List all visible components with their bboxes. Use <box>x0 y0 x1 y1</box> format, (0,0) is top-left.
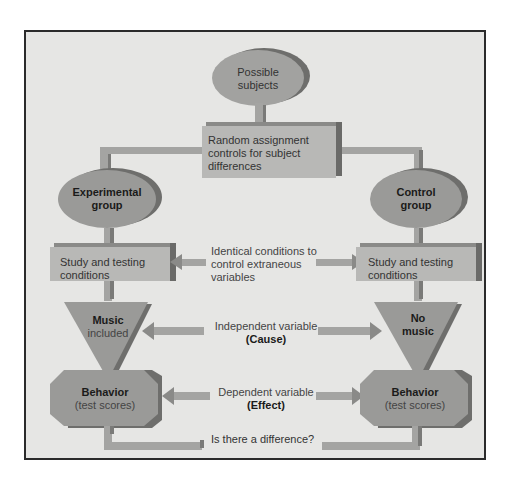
possible-subjects-line1: Possible <box>220 66 296 79</box>
arrow-independent-to-left <box>150 327 204 335</box>
behavior-right-bold: Behavior <box>362 386 468 399</box>
behavior-left-normal: (test scores) <box>52 399 158 412</box>
connector-study-right-shadow <box>419 281 423 299</box>
arrow-dependent-to-left <box>170 392 210 400</box>
independent-variable-annotation: Independent variable (Cause) <box>208 320 324 346</box>
random-assignment-label: Random assignment controls for subject d… <box>208 134 334 173</box>
control-group-label: Control group <box>372 186 460 212</box>
dependent-line1: Dependent variable <box>208 386 324 399</box>
arrow-independent-to-right <box>318 327 374 335</box>
study-right-line1: Study and testing <box>368 256 478 269</box>
branch-right-vertical-shadow <box>419 150 423 169</box>
study-left-line1: Study and testing <box>60 256 170 269</box>
music-included-bold: Music <box>68 314 148 327</box>
control-group-line2: group <box>372 199 460 212</box>
study-right-line2: conditions <box>368 269 478 282</box>
arrow-head-identical-left <box>170 254 182 270</box>
dependent-line2: (Effect) <box>208 399 324 412</box>
music-included-normal: included <box>68 327 148 340</box>
control-group-line1: Control <box>372 186 460 199</box>
connector-study-left-shadow <box>110 281 114 299</box>
experimental-group-line2: group <box>60 199 154 212</box>
compare-right-vertical-shadow <box>418 426 422 446</box>
music-included-label: Music included <box>68 314 148 340</box>
difference-question: Is there a difference? <box>211 433 321 446</box>
no-music-label: No music <box>378 312 458 338</box>
experimental-group-label: Experimental group <box>60 186 154 212</box>
experimental-group-line1: Experimental <box>60 186 154 199</box>
behavior-left-label: Behavior (test scores) <box>52 386 158 412</box>
compare-right-horizontal <box>322 442 418 450</box>
study-left-line2: conditions <box>60 269 170 282</box>
arrow-dependent-to-right <box>316 392 356 400</box>
identical-line3: variables <box>211 271 341 284</box>
independent-line1: Independent variable <box>208 320 324 333</box>
compare-left-horizontal <box>104 442 202 450</box>
no-music-line2: music <box>378 325 458 338</box>
behavior-left-bold: Behavior <box>52 386 158 399</box>
random-assignment-line1: Random assignment <box>208 134 334 147</box>
random-assignment-line3: differences <box>208 160 334 173</box>
arrow-head-independent-left <box>142 322 154 340</box>
random-assignment-line2: controls for subject <box>208 147 334 160</box>
dependent-variable-annotation: Dependent variable (Effect) <box>208 386 324 412</box>
branch-left-vertical <box>100 147 108 169</box>
possible-subjects-label: Possible subjects <box>220 66 296 92</box>
independent-line2: (Cause) <box>208 333 324 346</box>
study-right-label: Study and testing conditions <box>368 256 478 282</box>
connector-exp-to-study-shadow <box>110 228 114 244</box>
branch-left-horizontal <box>100 147 202 154</box>
possible-subjects-line2: subjects <box>220 79 296 92</box>
compare-left-vertical-shadow <box>110 426 114 434</box>
behavior-right-label: Behavior (test scores) <box>362 386 468 412</box>
branch-left-vertical-shadow <box>108 154 111 169</box>
study-left-label: Study and testing conditions <box>60 256 170 282</box>
arrow-head-dependent-left <box>162 387 174 405</box>
arrow-identical-to-left <box>178 259 206 266</box>
branch-right-horizontal <box>342 147 422 154</box>
connector-ctrl-to-study-shadow <box>419 228 423 244</box>
compare-left-end <box>200 440 204 448</box>
behavior-right-normal: (test scores) <box>362 399 468 412</box>
arrow-identical-to-right <box>316 259 356 266</box>
no-music-line1: No <box>378 312 458 325</box>
identical-line1: Identical conditions to <box>211 245 341 258</box>
